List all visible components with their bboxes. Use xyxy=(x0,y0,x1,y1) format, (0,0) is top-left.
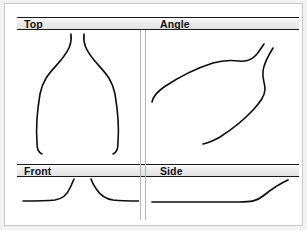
drawing-plate: Top Angle Front Side xyxy=(4,3,303,226)
front-right-contour-path xyxy=(91,179,139,201)
front-view-sketch xyxy=(17,177,139,220)
view-label-angle: Angle xyxy=(160,18,190,29)
view-pane-front xyxy=(17,177,139,220)
angle-upper-contour-path xyxy=(152,44,264,102)
view-label-side: Side xyxy=(160,165,183,176)
top-left-contour-path xyxy=(37,34,72,154)
header-band-bottom: Front Side xyxy=(17,164,299,177)
header-band-top: Top Angle xyxy=(17,17,299,30)
view-pane-top xyxy=(17,30,139,164)
view-label-top: Top xyxy=(24,18,43,29)
view-pane-side xyxy=(147,177,299,220)
top-right-contour-path xyxy=(84,34,119,154)
vertical-divider-line-left xyxy=(140,30,141,220)
front-left-contour-path xyxy=(23,179,74,201)
view-label-front: Front xyxy=(24,165,51,176)
top-view-sketch xyxy=(17,30,139,164)
sketch-panel-root: Top Angle Front Side xyxy=(0,0,307,230)
side-view-sketch xyxy=(147,177,299,220)
side-profile-path xyxy=(152,180,288,202)
view-pane-angle xyxy=(147,30,299,164)
vertical-divider-line-right xyxy=(145,30,146,220)
angle-view-sketch xyxy=(147,30,299,164)
